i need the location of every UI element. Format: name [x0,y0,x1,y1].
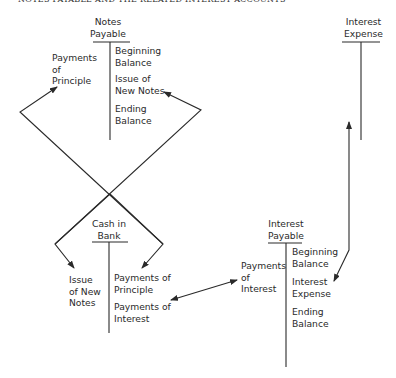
cash-credit-payments-of-principle: Payments of Principle [114,272,171,295]
interest-payable-credit-ending-balance: Ending Balance [292,306,329,329]
notes-payable-debit-payments-of-principle: Payments of Principle [52,52,97,87]
cash-credit-payments-of-interest: Payments of Interest [114,301,171,324]
notes-payable-credit-ending-balance: Ending Balance [115,103,152,126]
arrow-payments-of-interest [171,280,237,300]
interest-payable-title: Interest Payable [268,218,304,241]
notes-payable-title: Notes Payable [90,16,126,39]
interest-expense-title: Interest Expense [344,16,383,39]
cash-debit-issue-of-new-notes: Issue of New Notes [69,274,101,309]
notes-payable-credit-issue-of-new-notes: Issue of New Notes [115,73,165,96]
notes-payable-credit-beginning-balance: Beginning Balance [115,45,161,68]
interest-payable-credit-beginning-balance: Beginning Balance [292,246,338,269]
cash-in-bank-title: Cash in Bank [92,218,126,241]
interest-payable-credit-interest-expense: Interest Expense [292,276,331,299]
interest-expense-t-account [342,42,380,140]
interest-payable-debit-payments-of-interest: Payments of Interest [241,260,286,295]
